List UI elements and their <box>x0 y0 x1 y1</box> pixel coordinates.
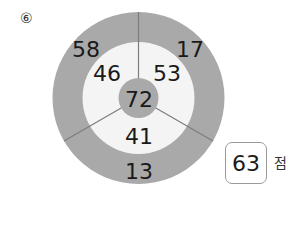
inner-value-bottom: 41 <box>125 124 153 149</box>
center-value: 72 <box>125 87 153 112</box>
answer-box: 63 <box>225 142 267 184</box>
outer-value-bottom: 13 <box>125 159 153 184</box>
inner-value-top-left: 46 <box>93 61 121 86</box>
answer-unit: 점 <box>274 152 287 172</box>
outer-value-top-left: 58 <box>72 37 100 62</box>
inner-value-top-right: 53 <box>153 61 181 86</box>
outer-value-top-right: 17 <box>176 37 204 62</box>
